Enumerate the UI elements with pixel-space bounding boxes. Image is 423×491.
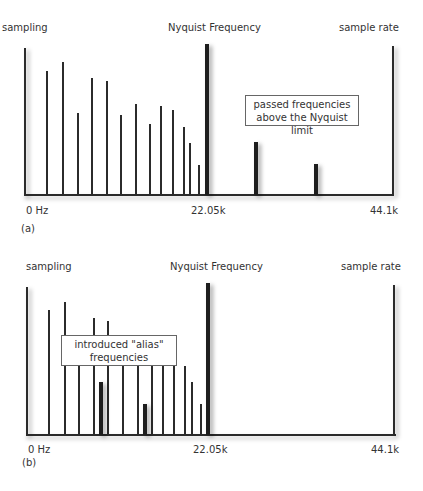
sample-rate-marker [392,46,394,196]
x-start-label: 0 Hz [28,444,50,455]
nyquist-marker [205,44,209,195]
annotation-line-1: passed frequencies [246,98,358,111]
frequency-component [91,78,93,195]
sampling-marker [26,287,28,436]
frequency-component [48,310,50,435]
x-mid-label: 22.05k [193,444,227,455]
annotation-line-2: frequencies [62,351,176,364]
alias-frequency-bar [143,404,147,435]
alias-frequencies-annotation: introduced "alias" frequencies [61,335,177,366]
alias-frequency-bar [99,382,103,435]
annotation-line-2: above the Nyquist limit [246,111,358,137]
sample-rate-label: sample rate [339,22,399,33]
frequency-component [46,71,48,195]
nyquist-marker [206,283,210,435]
frequency-component [200,404,202,435]
frequency-component [149,124,151,195]
frequency-component [198,165,200,195]
frequency-component [191,382,193,435]
sample-rate-marker [393,285,395,436]
frequency-component [135,104,137,195]
annotation-line-1: introduced "alias" [62,338,176,351]
sample-rate-label: sample rate [341,261,401,272]
frequency-component [62,62,64,195]
frequency-component [172,110,174,195]
nyquist-label: Nyquist Frequency [168,22,261,33]
panel-caption: (a) [21,223,35,234]
frequency-component [160,106,162,195]
frequency-component [122,355,124,435]
passed-frequency-bar [314,164,318,195]
frequency-axis [24,194,394,196]
frequency-component [189,143,191,195]
nyquist-label: Nyquist Frequency [170,261,263,272]
sampling-marker [24,48,26,196]
panel-caption: (b) [22,457,36,468]
passed-frequency-bar [254,142,258,195]
frequency-component [184,366,186,435]
passed-frequencies-annotation: passed frequencies above the Nyquist lim… [245,95,359,126]
panel-a: sampling Nyquist Frequency sample rate p… [0,0,423,245]
x-start-label: 0 Hz [26,205,48,216]
x-end-label: 44.1k [371,444,399,455]
sampling-label: sampling [26,261,72,272]
x-mid-label: 22.05k [191,205,225,216]
frequency-component [151,364,153,435]
frequency-axis [26,434,396,436]
frequency-component [77,113,79,195]
frequency-component [106,81,108,195]
frequency-component [120,115,122,195]
frequency-component [183,127,185,195]
x-end-label: 44.1k [370,205,398,216]
panel-b: sampling Nyquist Frequency sample rate i… [0,245,423,490]
sampling-label: sampling [2,22,48,33]
frequency-component [64,302,66,435]
